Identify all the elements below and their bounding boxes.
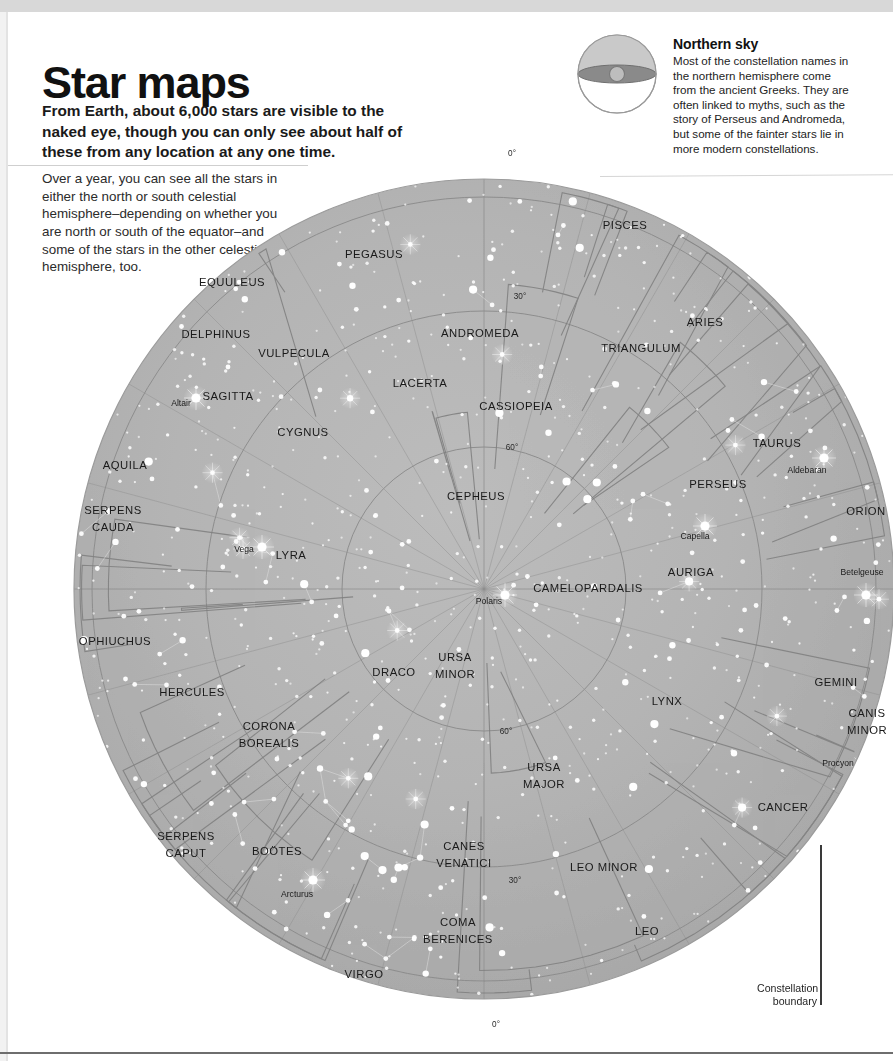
- constellation-label: VULPECULA: [258, 347, 330, 359]
- declination-label: 60°: [506, 443, 518, 452]
- star-name-label: Altair: [171, 398, 191, 408]
- star-name-label: Aldebaran: [787, 465, 826, 475]
- constellation-label: CEPHEUS: [447, 490, 505, 502]
- constellation-label: CYGNUS: [277, 426, 328, 438]
- constellation-label: MINOR: [847, 724, 887, 736]
- celestial-sphere-icon: [576, 33, 658, 115]
- constellation-label: BOÖTES: [252, 845, 302, 857]
- constellation-label: URSA: [438, 651, 471, 663]
- constellation-label: AURIGA: [668, 566, 714, 578]
- page-bottom-rule: [0, 1052, 893, 1054]
- constellation-label: LYRA: [276, 549, 307, 561]
- constellation-label: DRACO: [372, 666, 415, 678]
- legend-line-1: Constellation: [757, 982, 818, 994]
- constellation-label: MINOR: [435, 668, 475, 680]
- constellation-label: LEO: [635, 925, 659, 937]
- constellation-label: PEGASUS: [345, 248, 403, 260]
- star-chart: 0°30°60°60°30°0° AltairVegaPolarisAldeba…: [0, 140, 893, 1040]
- constellation-label: CASSIOPEIA: [479, 400, 552, 412]
- northern-sky-callout: Northern sky Most of the constellation n…: [673, 36, 853, 156]
- constellation-label: LYNX: [652, 695, 683, 707]
- constellation-label: CANCER: [758, 801, 809, 813]
- constellation-boundary-legend: Constellation boundary: [757, 982, 817, 1008]
- constellation-label: HERCULES: [159, 686, 225, 698]
- constellation-label: LEO MINOR: [570, 861, 638, 873]
- constellation-label: CORONA: [243, 720, 296, 732]
- declination-label: 0°: [508, 149, 516, 158]
- constellation-label: URSA: [527, 761, 560, 773]
- constellation-label: CANIS: [848, 707, 885, 719]
- star-name-label: Procyon: [822, 758, 854, 768]
- constellation-label: DELPHINUS: [181, 328, 250, 340]
- constellation-label: BOREALIS: [239, 737, 300, 749]
- star-maps-page: Star maps From Earth, about 6,000 stars …: [0, 0, 893, 1061]
- callout-heading: Northern sky: [673, 36, 853, 52]
- constellation-boundary-leader: [820, 845, 822, 1005]
- constellation-label: SERPENS: [84, 504, 142, 516]
- constellation-label: OPHIUCHUS: [79, 635, 151, 647]
- star-name-label: Capella: [680, 531, 709, 541]
- star-name-label: Betelgeuse: [840, 567, 883, 577]
- constellation-label: MAJOR: [523, 778, 565, 790]
- constellation-label: VENATICI: [436, 857, 491, 869]
- constellation-label: EQUULEUS: [199, 276, 265, 288]
- constellation-label: CAUDA: [92, 521, 134, 533]
- constellation-label: SERPENS: [157, 830, 215, 842]
- constellation-label: CANES: [443, 840, 484, 852]
- constellation-label: SAGITTA: [203, 390, 254, 402]
- constellation-label: VIRGO: [345, 968, 384, 980]
- constellation-label: LACERTA: [393, 377, 448, 389]
- constellation-label: PISCES: [603, 219, 647, 231]
- star-name-label: Vega: [234, 544, 254, 554]
- declination-label: 30°: [514, 292, 526, 301]
- declination-label: 60°: [500, 727, 512, 736]
- constellation-label: AQUILA: [103, 459, 147, 471]
- constellation-label: TAURUS: [753, 437, 802, 449]
- constellation-label: BERENICES: [423, 933, 493, 945]
- constellation-label: CAMELOPARDALIS: [533, 582, 643, 594]
- constellation-label: PERSEUS: [689, 478, 747, 490]
- constellation-label: GEMINI: [814, 676, 857, 688]
- declination-label: 30°: [509, 876, 521, 885]
- page-top-band: [0, 0, 893, 12]
- constellation-label: CAPUT: [166, 847, 207, 859]
- star-chart-svg: 0°30°60°60°30°0° AltairVegaPolarisAldeba…: [0, 140, 893, 1040]
- constellation-label: ORION: [846, 505, 886, 517]
- constellation-label: ARIES: [687, 316, 723, 328]
- constellation-label: TRIANGULUM: [601, 342, 681, 354]
- star-name-label: Polaris: [476, 596, 502, 606]
- constellation-label: COMA: [440, 916, 476, 928]
- constellation-label: ANDROMEDA: [441, 327, 519, 339]
- legend-line-2: boundary: [773, 995, 817, 1007]
- declination-label: 0°: [492, 1020, 500, 1029]
- star-name-label: Arcturus: [281, 889, 313, 899]
- page-title: Star maps: [42, 60, 250, 105]
